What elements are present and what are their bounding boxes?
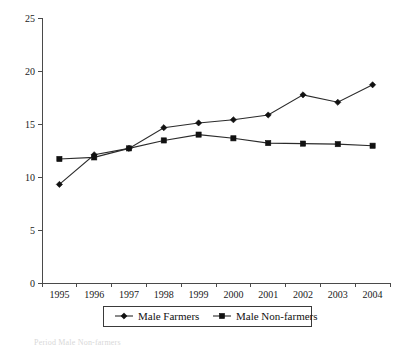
y-tick-label: 0 — [30, 278, 35, 289]
x-axis-ticks: 1995199619971998199920002001200220032004 — [42, 283, 390, 300]
y-tick-label: 15 — [25, 119, 35, 130]
x-tick-label: 2002 — [293, 289, 313, 300]
chart-legend: Male FarmersMale Non-farmers — [103, 306, 318, 326]
series-1 — [56, 82, 375, 188]
data-point — [335, 99, 341, 105]
data-point — [161, 138, 166, 143]
y-axis-ticks: 0510152025 — [25, 13, 42, 289]
x-tick-label: 1996 — [84, 289, 104, 300]
data-point — [196, 132, 201, 137]
x-tick-label: 1999 — [189, 289, 209, 300]
data-point — [230, 117, 236, 123]
x-tick-label: 2001 — [258, 289, 278, 300]
data-point — [370, 143, 375, 148]
series-2 — [57, 132, 375, 162]
data-point — [335, 142, 340, 147]
x-tick-label: 1997 — [119, 289, 139, 300]
y-tick-label: 10 — [25, 172, 35, 183]
data-point — [300, 92, 306, 98]
chart-axes — [42, 18, 390, 283]
y-tick-label: 20 — [25, 66, 35, 77]
legend-square-icon — [219, 313, 224, 318]
x-tick-label: 1998 — [154, 289, 174, 300]
data-point — [370, 82, 376, 88]
data-series-group — [56, 82, 375, 188]
x-tick-label: 1995 — [49, 289, 69, 300]
data-point — [57, 156, 62, 161]
legend-label: Male Non-farmers — [236, 310, 318, 322]
cut-off-caption: Period Male Non-farmers — [34, 338, 121, 346]
line-chart: 0510152025 19951996199719981999200020012… — [0, 0, 398, 346]
data-point — [161, 125, 167, 131]
series-line — [59, 85, 372, 185]
x-tick-label: 2000 — [223, 289, 243, 300]
x-tick-label: 2003 — [328, 289, 348, 300]
x-tick-label: 2004 — [363, 289, 383, 300]
y-tick-label: 5 — [30, 225, 35, 236]
chart-svg: 0510152025 19951996199719981999200020012… — [0, 0, 398, 346]
data-point — [300, 141, 305, 146]
data-point — [265, 112, 271, 118]
y-tick-label: 25 — [25, 13, 35, 24]
data-point — [196, 120, 202, 126]
data-point — [231, 136, 236, 141]
legend-label: Male Farmers — [138, 310, 199, 322]
data-point — [92, 155, 97, 160]
data-point — [126, 146, 131, 151]
series-line — [59, 135, 372, 159]
data-point — [266, 140, 271, 145]
